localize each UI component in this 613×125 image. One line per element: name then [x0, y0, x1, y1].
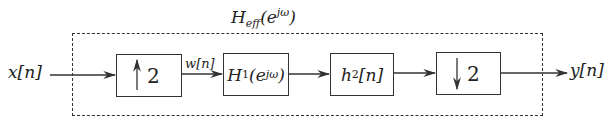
h1-filter-block: H1(ejω) — [223, 53, 289, 96]
effective-system-title: Heff(ejω) — [231, 6, 296, 30]
output-signal-label: y[n] — [570, 60, 604, 80]
h2-filter-block: h2[n] — [330, 53, 394, 96]
upsampler-block: 2 — [116, 54, 182, 97]
intermediate-signal-label: w[n] — [185, 56, 215, 71]
downsampler-block: 2 — [436, 52, 501, 95]
input-signal-label: x[n] — [8, 62, 42, 82]
